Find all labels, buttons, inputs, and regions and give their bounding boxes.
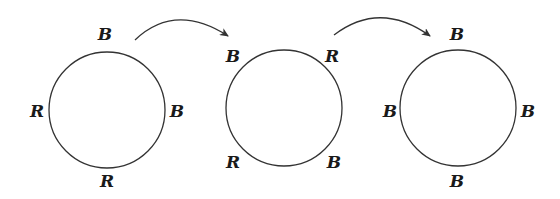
diagram-canvas: B R B R B R R B B B B B — [0, 0, 560, 199]
label-top: B — [97, 24, 112, 44]
transition-arrow-2 — [334, 18, 430, 36]
label-bottom-right: B — [326, 152, 341, 172]
diagram-svg: B R B R B R R B B B B B — [0, 0, 560, 199]
label-bottom-left: R — [225, 152, 240, 172]
label-left: R — [29, 101, 44, 121]
label-left: B — [382, 101, 397, 121]
state-circle-1: B R B R — [29, 24, 184, 191]
label-top-right: R — [324, 46, 339, 66]
label-right: B — [169, 101, 184, 121]
transition-arrow-1 — [135, 20, 228, 40]
label-top-left: B — [225, 46, 240, 66]
circle-shape — [400, 50, 516, 166]
state-circle-3: B B B B — [382, 24, 535, 191]
circle-shape — [226, 50, 342, 166]
label-bottom: B — [449, 171, 464, 191]
label-bottom: R — [99, 171, 114, 191]
state-circle-2: B R R B — [225, 46, 342, 172]
label-top: B — [449, 24, 464, 44]
circle-shape — [49, 52, 165, 168]
label-right: B — [520, 101, 535, 121]
